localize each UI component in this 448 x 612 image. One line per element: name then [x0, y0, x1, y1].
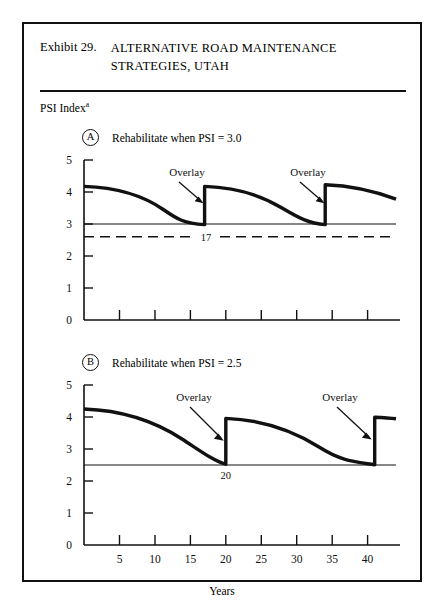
panel-b-ytick-0: 0 [66, 539, 72, 551]
panel-b-plot: 5 4 3 2 1 0 [44, 373, 408, 588]
panel-b-xtick-5: 5 [117, 553, 123, 565]
exhibit-title-line1: ALTERNATIVE ROAD MAINTENANCE [111, 40, 337, 58]
panel-a-marker: A [82, 129, 99, 146]
panel-a-overlay-arrow-1 [179, 182, 204, 203]
panel-a-caption-text: Rehabilitate when PSI = 3.0 [112, 132, 241, 144]
panel-b-xtick-20: 20 [220, 553, 232, 565]
exhibit-title-line2: STRATEGIES, UTAH [111, 58, 337, 76]
panel-b-caption: B Rehabilitate when PSI = 2.5 [82, 354, 241, 371]
panel-b-xtick-30: 30 [291, 553, 303, 565]
panel-b-overlay-label-2: Overlay [322, 391, 358, 403]
panel-b-marker: B [82, 354, 99, 371]
panel-b-ytick-4: 4 [66, 411, 72, 423]
panel-a-ytick-4: 4 [66, 186, 72, 198]
panel-b-svg: 5 4 3 2 1 0 [44, 373, 408, 588]
panel-b-threshold-label: 20 [221, 470, 232, 481]
panel-a-y-ticklabels: 5 4 3 2 1 0 [66, 154, 72, 326]
panel-a-dashed-line-label: 17 [201, 232, 212, 243]
y-axis-name: PSI Indexa [40, 100, 89, 114]
panel-b-ytick-3: 3 [66, 443, 72, 455]
x-axis-title: Years [24, 585, 420, 597]
panel-a-ytick-3: 3 [66, 218, 72, 230]
panel-b-x-ticks [120, 535, 368, 545]
panel-a-ytick-5: 5 [66, 154, 72, 166]
panel-a-ytick-2: 2 [66, 250, 72, 262]
panel-b-y-ticklabels: 5 4 3 2 1 0 [66, 379, 72, 551]
exhibit-label: Exhibit 29. [40, 40, 97, 55]
panel-b-xtick-15: 15 [185, 553, 197, 565]
y-axis-footnote-marker: a [86, 100, 89, 109]
panel-b-xtick-40: 40 [362, 553, 374, 565]
panel-a-overlay-arrow-2 [300, 182, 325, 203]
panel-a-psi-curve [84, 185, 396, 225]
panel-b-ytick-5: 5 [66, 379, 72, 391]
panel-a-x-ticks [120, 310, 368, 320]
panel-b-xtick-10: 10 [149, 553, 161, 565]
panel-b-overlay-arrow-1 [190, 407, 224, 441]
panel-b-psi-curve [84, 409, 396, 465]
panel-b-x-ticklabels: 5 10 15 20 25 30 35 40 [117, 553, 374, 565]
y-axis-name-text: PSI Index [40, 102, 86, 114]
panel-b-overlay-label-1: Overlay [176, 391, 212, 403]
panel-b-ytick-1: 1 [66, 507, 72, 519]
panel-a-svg: 5 4 3 2 1 0 [44, 148, 408, 338]
panel-b-overlay-arrow-2 [337, 407, 372, 440]
panel-a-overlay-label-1: Overlay [169, 166, 205, 178]
panel-b-caption-text: Rehabilitate when PSI = 2.5 [112, 357, 241, 369]
exhibit-frame: Exhibit 29. ALTERNATIVE ROAD MAINTENANCE… [22, 22, 422, 582]
panel-b-xtick-25: 25 [256, 553, 268, 565]
panel-a-caption: A Rehabilitate when PSI = 3.0 [82, 129, 241, 146]
exhibit-header: Exhibit 29. ALTERNATIVE ROAD MAINTENANCE… [40, 40, 408, 76]
panel-a-ytick-0: 0 [66, 314, 72, 326]
panel-a-plot: 5 4 3 2 1 0 [44, 148, 408, 338]
panel-a-overlay-label-2: Overlay [290, 166, 326, 178]
panel-b-xtick-35: 35 [326, 553, 338, 565]
exhibit-title: ALTERNATIVE ROAD MAINTENANCE STRATEGIES,… [111, 40, 337, 76]
panel-b-y-ticks [84, 385, 93, 513]
header-divider [40, 90, 406, 92]
panel-b-ytick-2: 2 [66, 475, 72, 487]
panel-a-ytick-1: 1 [66, 282, 72, 294]
